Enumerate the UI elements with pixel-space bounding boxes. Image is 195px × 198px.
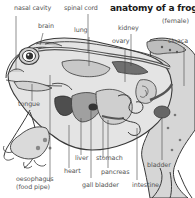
label-liver: liver	[75, 155, 88, 162]
label-oesophagus-sub: (food pipe)	[16, 184, 50, 191]
diagram-subtitle: (female)	[162, 17, 189, 25]
label-spinal-cord: spinal cord	[64, 5, 98, 12]
label-pancreas: pancreas	[101, 169, 129, 176]
label-intestine: intestine	[132, 182, 159, 189]
label-ovary: ovary	[112, 38, 130, 45]
label-tongue: tongue	[18, 101, 40, 108]
label-nasal-cavity: nasal cavity	[14, 5, 51, 12]
label-gall-bladder: gall bladder	[82, 182, 119, 189]
frog-anatomy-diagram: nasal cavity brain spinal cord lung anat…	[0, 0, 195, 198]
label-stomach: stomach	[96, 155, 123, 162]
label-lung: lung	[74, 27, 88, 34]
label-cloaca: cloaca	[168, 38, 188, 45]
label-kidney: kidney	[118, 25, 139, 32]
label-brain: brain	[38, 23, 54, 30]
label-bladder: bladder	[147, 162, 171, 169]
diagram-title: anatomy of a frog	[110, 3, 195, 13]
label-oesophagus: oesophagus	[16, 176, 54, 183]
label-heart: heart	[64, 168, 81, 175]
